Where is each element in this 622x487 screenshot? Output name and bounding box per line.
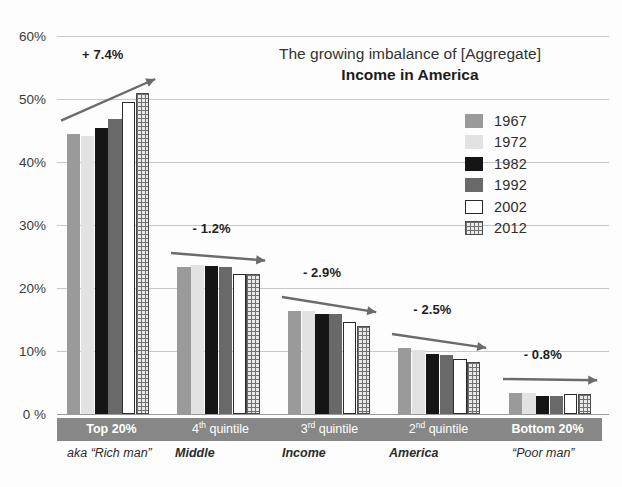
legend-label: 1967 <box>494 113 527 129</box>
chart-container: 60%50%40%30%20%10%0 % + 7.4%- 1.2%- 2.9%… <box>0 0 622 487</box>
bar-2002 <box>564 394 577 414</box>
x-axis-sublabel-1: aka “Rich man” <box>67 446 152 460</box>
bar-1992 <box>329 314 342 414</box>
x-axis-label-5: Bottom 20% <box>493 418 602 441</box>
swatch-2002-icon <box>465 200 483 214</box>
annotation-label-3: - 2.9% <box>303 265 341 280</box>
swatch-1967-icon <box>465 114 483 128</box>
bar-1992 <box>550 396 563 414</box>
trend-arrow-5 <box>499 363 607 396</box>
bar-1972 <box>81 136 94 414</box>
x-axis-sublabel-2: Middle <box>175 446 215 460</box>
trend-arrow-2 <box>167 237 275 277</box>
y-axis-tick-label: 20% <box>0 281 46 296</box>
swatch-1992-icon <box>465 178 483 192</box>
y-axis-tick-label: 60% <box>0 29 46 44</box>
y-axis-tick-label: 10% <box>0 344 46 359</box>
bar-1982 <box>205 266 218 414</box>
legend: 196719721982199220022012 <box>465 110 527 239</box>
bar-2002 <box>233 274 246 414</box>
trend-arrow-3 <box>278 281 386 328</box>
y-axis-ticks: 60%50%40%30%20%10%0 % <box>0 0 52 378</box>
swatch-1982-icon <box>465 157 483 171</box>
legend-label: 2012 <box>494 220 527 236</box>
x-axis-sublabel-5: “Poor man” <box>512 446 575 460</box>
bar-2012 <box>246 274 259 414</box>
bar-1972 <box>191 265 204 414</box>
title-line-1: The growing imbalance of [Aggregate] <box>210 44 610 64</box>
annotation-label-2: - 1.2% <box>193 221 231 236</box>
bar-2002 <box>122 102 135 414</box>
trend-arrow-4 <box>388 318 496 364</box>
legend-label: 2002 <box>494 199 527 215</box>
gridline <box>57 414 609 415</box>
y-axis-tick-label: 0 % <box>0 407 46 422</box>
x-axis-label-4: 2nd quintile <box>384 418 493 441</box>
bar-1992 <box>108 119 121 414</box>
swatch-1972-icon <box>465 135 483 149</box>
bar-group <box>278 36 388 414</box>
legend-label: 1992 <box>494 177 527 193</box>
legend-item-1967[interactable]: 1967 <box>465 110 527 132</box>
page-title: The growing imbalance of [Aggregate] Inc… <box>210 44 610 85</box>
x-axis-label-3: 3rd quintile <box>275 418 384 441</box>
legend-item-1982[interactable]: 1982 <box>465 153 527 175</box>
bar-2012 <box>467 362 480 414</box>
x-axis-band: Top 20%4th quintile3rd quintile2nd quint… <box>57 418 602 441</box>
x-axis-sublabels: aka “Rich man”MiddleIncomeAmerica“Poor m… <box>57 446 602 468</box>
bar-1967 <box>177 267 190 414</box>
bar-1992 <box>440 355 453 414</box>
x-axis-label-2: 4th quintile <box>166 418 275 441</box>
annotation-label-4: - 2.5% <box>413 302 451 317</box>
legend-item-2002[interactable]: 2002 <box>465 196 527 218</box>
bar-1982 <box>536 396 549 414</box>
bar-2012 <box>357 326 370 414</box>
bar-2012 <box>578 394 591 414</box>
x-axis-sublabel-4: America <box>389 446 438 460</box>
annotation-label-1: + 7.4% <box>82 47 123 62</box>
bar-1972 <box>522 393 535 414</box>
bar-1982 <box>95 128 108 414</box>
legend-item-2012[interactable]: 2012 <box>465 218 527 240</box>
y-axis-tick-label: 30% <box>0 218 46 233</box>
x-axis-label-1: Top 20% <box>57 418 166 441</box>
swatch-2012-icon <box>465 221 483 235</box>
legend-item-1972[interactable]: 1972 <box>465 132 527 154</box>
bar-2002 <box>343 322 356 414</box>
legend-label: 1982 <box>494 156 527 172</box>
trend-arrow-1 <box>57 63 165 137</box>
bar-1967 <box>67 134 80 414</box>
y-axis-tick-label: 40% <box>0 155 46 170</box>
annotation-label-5: - 0.8% <box>524 347 562 362</box>
x-axis-sublabel-3: Income <box>282 446 326 460</box>
bar-2002 <box>453 359 466 414</box>
legend-item-1992[interactable]: 1992 <box>465 175 527 197</box>
title-line-2: Income in America <box>210 64 610 85</box>
legend-label: 1972 <box>494 134 527 150</box>
bar-2012 <box>136 93 149 414</box>
bar-1992 <box>219 267 232 414</box>
y-axis-tick-label: 50% <box>0 92 46 107</box>
bar-1982 <box>315 314 328 414</box>
